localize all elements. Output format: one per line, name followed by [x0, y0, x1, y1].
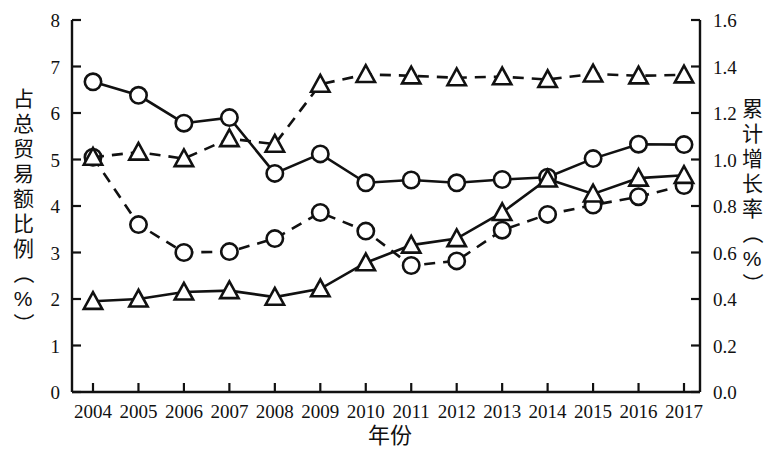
- data-point-circle: [312, 204, 328, 220]
- x-axis-tick-label: 2016: [620, 401, 658, 422]
- x-axis-tick-label: 2015: [574, 401, 612, 422]
- line-chart-plot: 0123456780.00.20.40.60.81.01.21.41.62004…: [0, 0, 773, 461]
- axis-title-char: ）: [740, 267, 765, 301]
- y-axis-tick-label: 8: [51, 10, 61, 31]
- data-point-circle: [403, 257, 419, 273]
- x-axis-tick-label: 2008: [256, 401, 294, 422]
- axis-title-char: 总: [6, 111, 40, 136]
- data-point-circle: [221, 243, 237, 259]
- x-axis-tick-label: 2005: [119, 401, 157, 422]
- x-axis-tick-label: 2006: [165, 401, 203, 422]
- data-point-circle: [630, 189, 646, 205]
- y-axis-tick-label: 4: [51, 196, 61, 217]
- y2-axis-tick-label: 1.6: [713, 10, 737, 31]
- y2-axis-tick-label: 1.2: [713, 103, 737, 124]
- right-axis-title: 累计增长率（%）: [735, 96, 769, 296]
- axis-title-char: 增: [735, 146, 769, 171]
- x-axis-tick-label: 2013: [483, 401, 521, 422]
- data-point-circle: [676, 136, 692, 152]
- data-point-circle: [221, 109, 237, 125]
- data-point-circle: [630, 136, 646, 152]
- data-point-circle: [494, 171, 510, 187]
- x-axis-tick-label: 2017: [665, 401, 703, 422]
- y2-axis-tick-label: 1.0: [713, 150, 737, 171]
- y2-axis-tick-label: 0.0: [713, 382, 737, 403]
- data-point-circle: [358, 223, 374, 239]
- y-axis-tick-label: 0: [51, 382, 61, 403]
- axis-title-char: 比: [6, 211, 40, 236]
- y2-axis-tick-label: 0.4: [713, 289, 737, 310]
- axis-title-char: 贸: [6, 136, 40, 161]
- y2-axis-tick-label: 0.8: [713, 196, 737, 217]
- data-point-circle: [494, 222, 510, 238]
- y-axis-tick-label: 1: [51, 336, 61, 357]
- data-point-circle: [403, 172, 419, 188]
- x-axis-tick-label: 2009: [301, 401, 339, 422]
- y2-axis-tick-label: 1.4: [713, 57, 737, 78]
- data-point-circle: [267, 165, 283, 181]
- x-axis-tick-label: 2014: [529, 401, 568, 422]
- x-axis-tick-label: 2010: [347, 401, 385, 422]
- data-point-circle: [449, 253, 465, 269]
- data-point-circle: [85, 74, 101, 90]
- x-axis-tick-label: 2011: [393, 401, 430, 422]
- chart-container: 占总贸易额比例（%） 累计增长率（%） 0123456780.00.20.40.…: [0, 0, 773, 461]
- axis-title-char: 长: [735, 171, 769, 196]
- y-axis-tick-label: 5: [51, 150, 61, 171]
- data-point-circle: [176, 244, 192, 260]
- axis-title-char: （: [11, 257, 36, 291]
- x-axis-tick-label: 2007: [210, 401, 248, 422]
- y2-axis-tick-label: 0.6: [713, 243, 737, 264]
- axis-title-char: 累: [735, 96, 769, 121]
- data-point-circle: [358, 175, 374, 191]
- data-point-circle: [267, 230, 283, 246]
- y-axis-tick-label: 2: [51, 289, 61, 310]
- data-point-circle: [539, 206, 555, 222]
- x-axis-title: 年份: [368, 423, 412, 448]
- axis-title-char: 易: [6, 161, 40, 186]
- x-axis-tick-label: 2004: [74, 401, 113, 422]
- data-point-circle: [449, 175, 465, 191]
- data-point-circle: [130, 216, 146, 232]
- data-point-circle: [130, 87, 146, 103]
- axis-title-char: 额: [6, 186, 40, 211]
- axis-title-char: 计: [735, 121, 769, 146]
- data-point-circle: [176, 115, 192, 131]
- y2-axis-tick-label: 0.2: [713, 336, 737, 357]
- x-axis-tick-label: 2012: [438, 401, 476, 422]
- data-point-circle: [585, 150, 601, 166]
- y-axis-tick-label: 6: [51, 103, 61, 124]
- data-point-circle: [312, 146, 328, 162]
- y-axis-tick-label: 3: [51, 243, 61, 264]
- axis-title-char: ）: [11, 307, 36, 341]
- y-axis-tick-label: 7: [51, 57, 61, 78]
- axis-title-char: （: [740, 217, 765, 251]
- left-axis-title: 占总贸易额比例（%）: [6, 86, 40, 336]
- axis-title-char: 占: [6, 86, 40, 111]
